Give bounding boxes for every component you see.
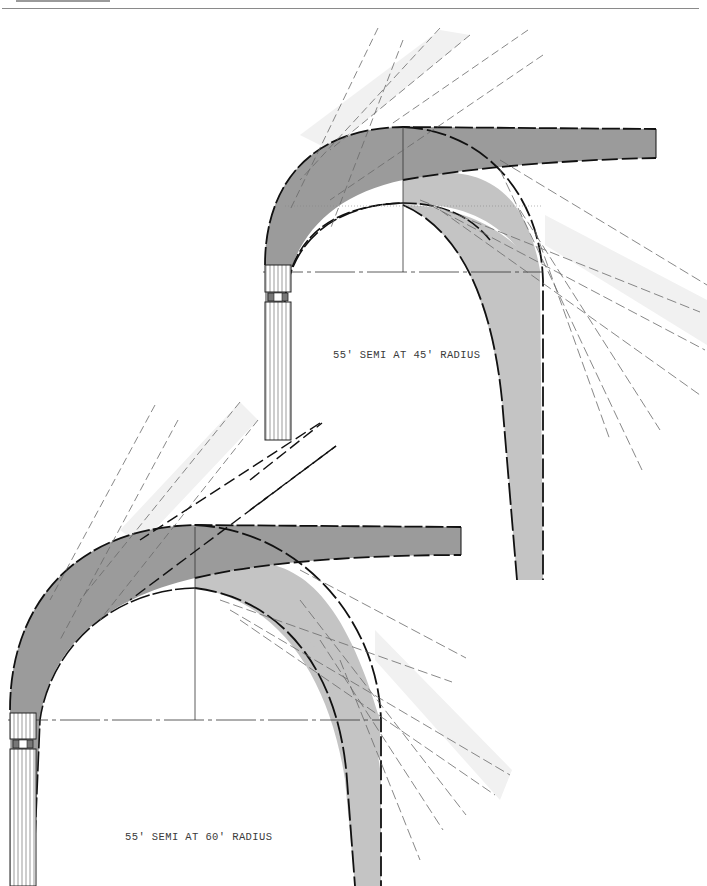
column-top [265,265,291,440]
turning-path-diagram: 55′ SEMI AT 45′ RADIUS [0,0,707,886]
projection-band-upper [120,402,258,545]
trailer-sweep-area [403,205,543,580]
guide-lines-lower [250,423,336,510]
projection-band-right [375,630,512,800]
figure-top-45ft-radius: 55′ SEMI AT 45′ RADIUS [250,28,707,580]
figure-top-caption: 55′ SEMI AT 45′ RADIUS [333,349,480,361]
figure-bottom-caption: 55′ SEMI AT 60′ RADIUS [125,831,272,843]
column-bottom [10,713,36,886]
figure-bottom-60ft-radius: 55′ SEMI AT 60′ RADIUS [8,402,512,886]
